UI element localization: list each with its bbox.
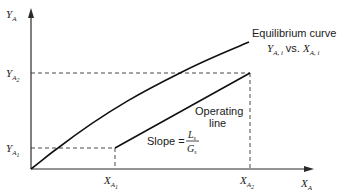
equilibrium-curve-label: Equilibrium curve bbox=[252, 27, 336, 39]
tick-ya1: YA1 bbox=[6, 142, 19, 158]
tick-ya2: YA2 bbox=[6, 67, 19, 83]
x-axis-arrow-icon bbox=[304, 166, 314, 172]
slope-label: Slope = bbox=[147, 135, 185, 147]
equilibrium-curve-sublabel: YA, ivs.XA, i bbox=[267, 42, 319, 57]
y-axis-arrow-icon bbox=[28, 8, 34, 18]
slope-numerator: Ls bbox=[187, 129, 197, 141]
y-axis-label: YA bbox=[6, 8, 17, 23]
tick-xa2: XA2 bbox=[239, 174, 254, 190]
slope-denominator: Gs bbox=[187, 143, 197, 155]
x-axis-label: XA bbox=[300, 177, 313, 192]
absorption-diagram: YA XA YA2 YA1 XA1 XA2 Equilibrium curve … bbox=[0, 0, 338, 195]
tick-xa1: XA1 bbox=[103, 174, 118, 190]
operating-line-label-1: Operating bbox=[195, 105, 243, 117]
operating-line-label-2: line bbox=[209, 117, 226, 129]
